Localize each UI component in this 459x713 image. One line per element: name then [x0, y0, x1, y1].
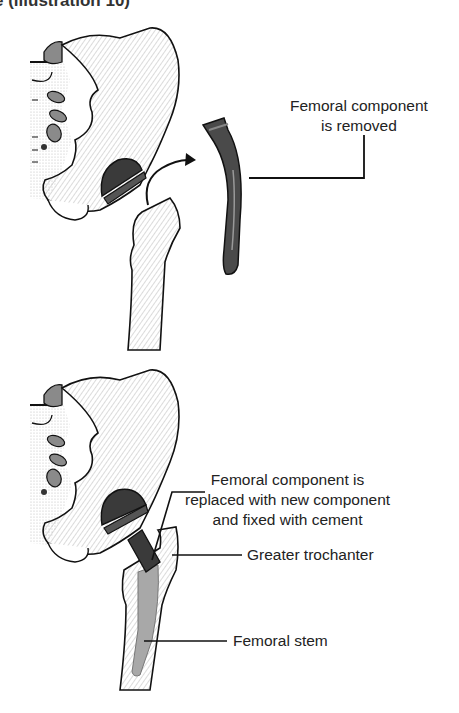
- label-line: Femoral component: [290, 96, 428, 116]
- label-greater-trochanter: Greater trochanter: [247, 545, 374, 565]
- figure-removal: [30, 28, 364, 350]
- leader-line-removed: [249, 135, 364, 178]
- label-femoral-component-replaced: Femoral component is replaced with new c…: [185, 470, 390, 530]
- label-femoral-stem: Femoral stem: [233, 631, 328, 651]
- label-line: Femoral component is: [185, 470, 390, 490]
- label-femoral-component-removed: Femoral component is removed: [290, 96, 428, 136]
- label-line: replaced with new component: [185, 490, 390, 510]
- curved-arrow-icon: [147, 160, 188, 205]
- old-femoral-component: [203, 118, 241, 274]
- label-line: is removed: [290, 116, 428, 136]
- femur-proximal: [128, 198, 180, 350]
- label-line: and fixed with cement: [185, 510, 390, 530]
